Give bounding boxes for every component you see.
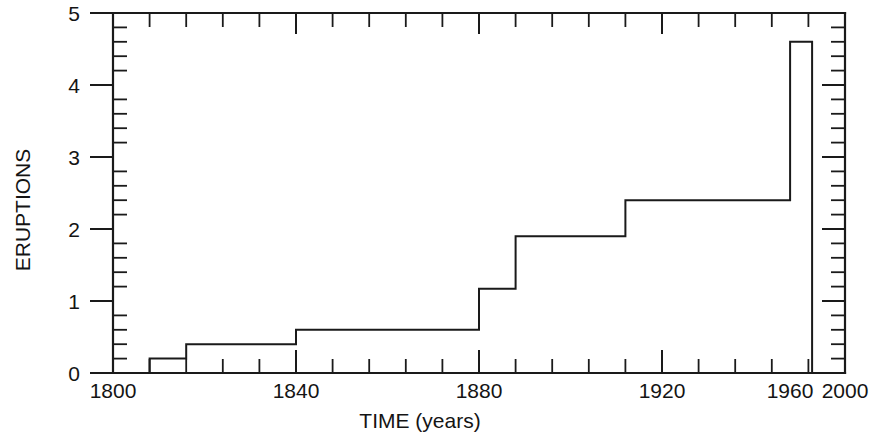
bar-steps-outline <box>150 42 813 373</box>
y-tick-label: 1 <box>68 290 80 313</box>
x-axis-ticks-top <box>150 13 809 34</box>
x-axis-ticks-bottom <box>113 350 845 373</box>
y-axis-minor-ticks-left <box>113 27 127 358</box>
y-tick-label: 5 <box>68 2 80 25</box>
x-tick-label: 1960 <box>767 379 814 402</box>
x-tick-label: 1800 <box>90 379 137 402</box>
x-tick-label: 1920 <box>639 379 686 402</box>
y-tick-label: 3 <box>68 146 80 169</box>
x-axis-tick-labels: 1800 1840 1880 1920 1960 2000 <box>90 379 869 402</box>
y-axis-title: ERUPTIONS <box>11 149 34 272</box>
y-tick-label: 4 <box>68 74 80 97</box>
eruptions-histogram-figure: 1800 1840 1880 1920 1960 2000 0 1 2 3 4 … <box>0 0 885 441</box>
y-axis-major-ticks-right <box>822 85 845 301</box>
y-tick-label: 2 <box>68 218 80 241</box>
y-axis-major-ticks-left <box>90 13 113 373</box>
y-tick-label: 0 <box>68 362 80 385</box>
y-axis-tick-labels: 0 1 2 3 4 5 <box>68 2 80 385</box>
histogram-bars <box>150 42 813 373</box>
x-axis-title: TIME (years) <box>359 409 480 432</box>
x-tick-label: 1880 <box>456 379 503 402</box>
x-tick-label: 2000 <box>822 379 869 402</box>
y-axis-minor-ticks-right <box>831 27 845 358</box>
x-tick-label: 1840 <box>273 379 320 402</box>
chart-svg: 1800 1840 1880 1920 1960 2000 0 1 2 3 4 … <box>0 0 885 441</box>
